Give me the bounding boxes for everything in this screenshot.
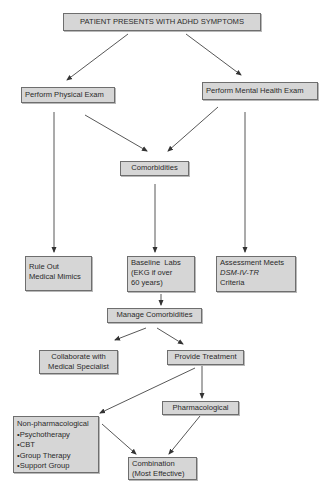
assessment-line-2: DSM-IV-TR (220, 268, 292, 278)
arrow-start-to-mental (186, 34, 241, 75)
labs-line-1: Baseline Labs (131, 258, 191, 268)
rule-out-line-1: Rule Out (29, 262, 88, 272)
collaborate-line-1: Collaborate with (43, 352, 114, 362)
node-provide-treatment: Provide Treatment (167, 350, 244, 365)
arrow-start-to-physical (67, 34, 128, 80)
node-physical-exam: Perform Physical Exam (21, 87, 115, 103)
assessment-line-3: Criteria (220, 278, 292, 288)
node-patient-presents: PATIENT PRESENTS WITH ADHD SYMPTOMS (63, 13, 261, 31)
arrow-manage-to-collaborate (115, 328, 146, 340)
node-baseline-labs: Baseline Labs (EKG if over 60 years) (127, 256, 195, 292)
node-non-pharmacological: Non-pharmacological Psychotherapy CBT Gr… (13, 416, 99, 473)
nonpharm-title: Non-pharmacological (17, 419, 95, 430)
nonpharm-item: Group Therapy (17, 451, 95, 462)
combination-line-1: Combination (132, 459, 193, 469)
labs-line-2: (EKG if over (131, 268, 191, 278)
node-rule-out-mimics: Rule Out Medical Mimics (25, 256, 92, 291)
nonpharm-item: Support Group (17, 461, 95, 472)
assessment-line-1: Assessment Meets (220, 258, 292, 268)
arrow-mental-to-comorbidities (168, 107, 218, 151)
rule-out-line-2: Medical Mimics (29, 272, 88, 282)
nonpharm-item: Psychotherapy (17, 430, 95, 441)
node-pharmacological: Pharmacological (162, 401, 239, 415)
node-combination: Combination (Most Effective) (128, 457, 197, 480)
node-assessment-criteria: Assessment Meets DSM-IV-TR Criteria (216, 256, 296, 292)
node-collaborate-specialist: Collaborate with Medical Specialist (39, 350, 118, 374)
nonpharm-list: Psychotherapy CBT Group Therapy Support … (17, 430, 95, 472)
node-comorbidities: Comorbidities (120, 161, 189, 176)
node-manage-comorbidities: Manage Comorbidities (107, 308, 202, 323)
node-mental-health-exam: Perform Mental Health Exam (202, 82, 318, 100)
nonpharm-item: CBT (17, 440, 95, 451)
collaborate-line-2: Medical Specialist (43, 362, 114, 372)
arrow-manage-to-treatment (157, 328, 183, 344)
labs-line-3: 60 years) (131, 278, 191, 288)
arrow-nonpharm-to-combination (102, 424, 136, 454)
combination-line-2: (Most Effective) (132, 469, 193, 479)
arrow-physical-to-comorbidities (85, 115, 147, 151)
arrow-pharm-to-combination (169, 416, 200, 454)
